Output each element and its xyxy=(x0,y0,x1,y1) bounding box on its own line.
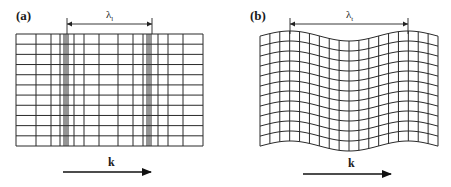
dimension-arrowhead-left xyxy=(290,22,295,27)
dimension-arrowhead-right xyxy=(147,22,152,27)
dimension-arrowhead-left xyxy=(67,22,72,27)
panel-b-label: (b) xyxy=(250,8,266,23)
panel-b-grid xyxy=(260,31,438,151)
panel-b-transverse-wave: (b) λt k xyxy=(250,8,438,174)
panel-b-wavelength-dimension xyxy=(290,18,408,34)
panel-b-wavevector-label: k xyxy=(348,156,355,170)
panel-a-wavelength-label: λl xyxy=(106,8,113,23)
wave-grid-diagram: (a) λl k (b) λt k xyxy=(0,0,451,187)
panel-a-wavelength-dimension xyxy=(67,18,152,34)
panel-a-wavevector-label: k xyxy=(108,155,115,169)
grid-wavy-line xyxy=(260,31,438,41)
panel-a-grid xyxy=(16,34,203,146)
panel-a-longitudinal-wave: (a) λl k xyxy=(16,8,203,172)
dimension-arrowhead-right xyxy=(403,22,408,27)
panel-b-wavelength-label: λt xyxy=(346,8,353,23)
figure-stage: (a) λl k (b) λt k xyxy=(0,0,451,187)
panel-a-label: (a) xyxy=(16,8,31,23)
